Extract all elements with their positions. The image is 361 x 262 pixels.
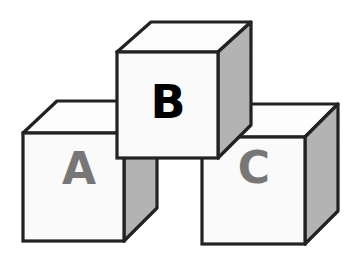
block-b: B	[117, 22, 251, 158]
blocks-diagram: A C B	[0, 0, 361, 262]
block-b-label: B	[150, 75, 185, 129]
block-c-label: C	[238, 142, 270, 193]
block-a-label: A	[62, 143, 96, 194]
